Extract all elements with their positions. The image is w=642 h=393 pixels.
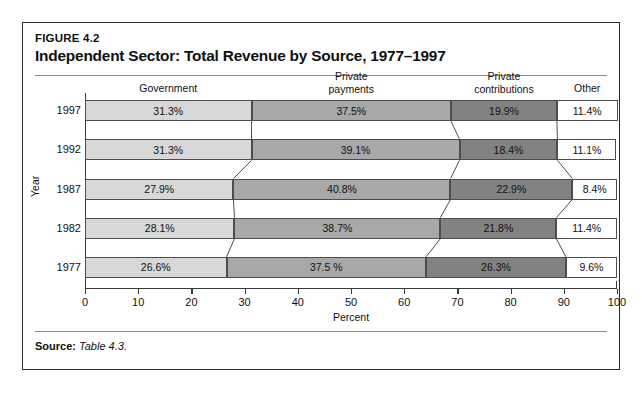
bar-segment: 27.9% (85, 179, 233, 200)
bar-segment: 22.9% (450, 179, 572, 200)
bar-segment: 8.4% (572, 179, 617, 200)
x-axis-tick-label: 10 (118, 296, 158, 309)
bar-row: 26.6%37.5 %26.3%9.6% (85, 257, 617, 278)
x-axis-tick (617, 289, 618, 294)
bar-segment: 40.8% (233, 179, 450, 200)
figure-container: FIGURE 4.2 Independent Sector: Total Rev… (22, 22, 620, 370)
bar-segment: 28.1% (85, 218, 234, 239)
x-axis-tick (511, 289, 512, 294)
source-value: Table 4.3. (79, 340, 127, 352)
source-note: Source: Table 4.3. (35, 339, 127, 353)
bar-segment: 37.5 % (227, 257, 427, 278)
x-axis-tick-label: 90 (544, 296, 584, 309)
bar-segment: 31.3% (85, 100, 252, 121)
figure-title: Independent Sector: Total Revenue by Sou… (35, 46, 607, 66)
x-axis-tick-label: 40 (278, 296, 318, 309)
x-axis-tick-label: 0 (65, 296, 105, 309)
year-tick-label: 1987 (47, 183, 81, 196)
x-axis-tick-label: 30 (225, 296, 265, 309)
x-axis-tick-label: 80 (491, 296, 531, 309)
source-divider (35, 331, 607, 332)
x-axis-tick (298, 289, 299, 294)
bar-segment: 19.9% (451, 100, 557, 121)
x-axis-tick-label: 50 (331, 296, 371, 309)
y-axis-title: Year (29, 176, 41, 197)
x-axis-tick-label: 100 (597, 296, 637, 309)
year-tick-label: 1997 (47, 104, 81, 117)
x-axis-tick (191, 289, 192, 294)
plot-frame: 31.3%37.5%19.9%11.4%31.3%39.1%18.4%11.1%… (85, 93, 617, 289)
bar-segment: 38.7% (234, 218, 440, 239)
x-axis-title: Percent (85, 311, 617, 323)
x-axis-tick-label: 20 (171, 296, 211, 309)
bar-segment: 11.4% (557, 100, 618, 121)
column-header: Government (113, 82, 223, 95)
figure-number: FIGURE 4.2 (35, 31, 607, 45)
bar-segment: 21.8% (440, 218, 556, 239)
x-axis-tick (351, 289, 352, 294)
bar-segment: 37.5% (252, 100, 452, 121)
chart-plot-area: Year 31.3%37.5%19.9%11.4%31.3%39.1%18.4%… (23, 79, 619, 329)
bar-row: 28.1%38.7%21.8%11.4% (85, 218, 617, 239)
bar-segment: 11.1% (557, 139, 616, 160)
x-axis-tick (85, 289, 86, 294)
bar-row: 27.9%40.8%22.9%8.4% (85, 179, 617, 200)
source-label: Source: (35, 340, 76, 352)
year-tick-label: 1982 (47, 222, 81, 235)
year-tick-label: 1977 (47, 261, 81, 274)
x-axis-tick-label: 60 (384, 296, 424, 309)
bar-segment: 39.1% (252, 139, 460, 160)
x-axis-tick-label: 70 (437, 296, 477, 309)
x-axis-tick (404, 289, 405, 294)
bar-row: 31.3%39.1%18.4%11.1% (85, 139, 617, 160)
bar-segment: 26.3% (426, 257, 566, 278)
bar-row: 31.3%37.5%19.9%11.4% (85, 100, 617, 121)
year-tick-label: 1992 (47, 143, 81, 156)
x-axis-tick (245, 289, 246, 294)
bar-segment: 11.4% (556, 218, 617, 239)
bar-segment: 18.4% (460, 139, 558, 160)
column-header: Private payments (296, 70, 406, 95)
x-axis-tick (564, 289, 565, 294)
x-axis-tick (138, 289, 139, 294)
x-axis-tick (457, 289, 458, 294)
bar-segment: 31.3% (85, 139, 252, 160)
bar-segment: 9.6% (566, 257, 617, 278)
bar-segment: 26.6% (85, 257, 227, 278)
figure-header: FIGURE 4.2 Independent Sector: Total Rev… (35, 31, 607, 66)
column-header: Other (532, 82, 642, 95)
